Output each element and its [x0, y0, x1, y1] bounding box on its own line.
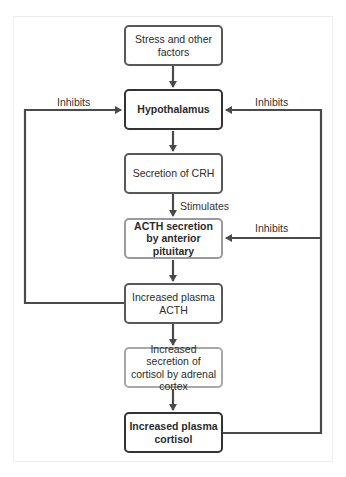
label-inhibits-right-mid: Inhibits — [255, 222, 288, 234]
label-inhibits-left: Inhibits — [57, 96, 90, 108]
box-crh-secretion: Secretion of CRH — [124, 153, 223, 194]
box-hypothalamus: Hypothalamus — [124, 89, 223, 130]
box-cortisol-secretion: Increased secretion of cortisol by adren… — [124, 347, 223, 388]
box-acth-secretion: ACTH secretion by anterior pituitary — [124, 218, 223, 259]
label-inhibits-right-top: Inhibits — [255, 96, 288, 108]
box-plasma-acth: Increased plasma ACTH — [124, 283, 223, 324]
box-plasma-cortisol: Increased plasma cortisol — [124, 412, 223, 453]
label-stimulates: Stimulates — [180, 200, 229, 212]
box-stress: Stress and other factors — [124, 25, 223, 66]
feedback-right-plasma-cortisol-to-hypothalamus — [223, 110, 321, 433]
feedback-left-plasma-acth-to-hypothalamus — [25, 110, 124, 303]
